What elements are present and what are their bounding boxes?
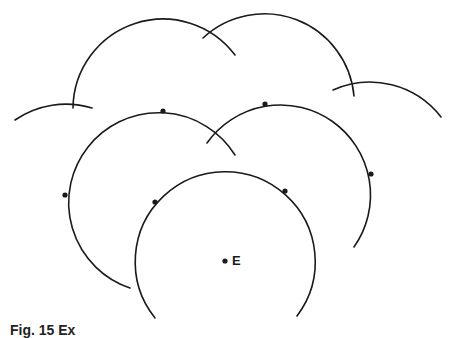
figure-caption: Fig. 15 Ex	[10, 322, 75, 338]
arc-right-middle	[207, 105, 371, 247]
marked-point-2	[282, 188, 287, 193]
point-label-E: E	[232, 253, 241, 268]
marked-point-6	[368, 171, 373, 176]
arc-bottom-circle-E	[135, 172, 315, 318]
marked-point-4	[160, 108, 165, 113]
arc-far-left-small	[15, 104, 92, 120]
marked-point-5	[262, 101, 267, 106]
arc-upper-right	[203, 14, 354, 96]
marked-point-3	[62, 192, 67, 197]
center-point-E	[222, 258, 227, 263]
marked-point-1	[152, 199, 157, 204]
arc-far-right-small	[333, 82, 441, 117]
